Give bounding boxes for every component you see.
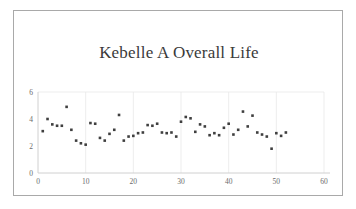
data-point <box>70 129 73 132</box>
data-point <box>251 114 254 117</box>
data-point <box>246 125 249 128</box>
data-point <box>270 147 273 150</box>
x-tick-label-10: 10 <box>82 177 90 186</box>
x-tick-label-20: 20 <box>130 177 138 186</box>
data-point <box>156 122 159 125</box>
data-point <box>127 135 130 138</box>
x-tick-label-0: 0 <box>36 177 40 186</box>
x-tick-label-50: 50 <box>273 177 281 186</box>
scatter-plot: 0246 0102030405060 <box>14 11 344 197</box>
data-point <box>75 139 78 142</box>
data-point <box>41 130 44 133</box>
data-point <box>275 132 278 135</box>
data-point <box>280 135 283 138</box>
data-point <box>223 126 226 129</box>
y-tick-label-6: 6 <box>29 88 33 97</box>
data-point <box>194 131 197 134</box>
data-point <box>89 122 92 125</box>
x-axis-tick-labels: 0102030405060 <box>36 177 328 186</box>
data-point <box>266 135 269 138</box>
y-axis-tick-labels: 0246 <box>29 88 33 178</box>
y-tick-label-0: 0 <box>29 169 33 178</box>
data-point <box>151 124 154 127</box>
data-point <box>51 123 54 126</box>
data-point <box>227 122 230 125</box>
x-tick-label-30: 30 <box>177 177 185 186</box>
data-point <box>161 131 164 134</box>
data-point <box>204 125 207 128</box>
x-tick-label-40: 40 <box>225 177 233 186</box>
data-point <box>65 106 68 109</box>
data-point <box>165 132 168 135</box>
data-point <box>118 114 121 117</box>
data-point <box>256 131 259 134</box>
data-point <box>242 110 245 113</box>
data-point <box>103 139 106 142</box>
data-point <box>232 133 235 136</box>
data-point <box>146 124 149 127</box>
data-point <box>108 133 111 136</box>
data-point <box>61 124 64 127</box>
y-tick-label-2: 2 <box>29 142 33 151</box>
data-point <box>123 139 126 142</box>
data-point <box>137 132 140 135</box>
data-point <box>208 134 211 137</box>
data-point <box>184 116 187 119</box>
data-point <box>261 133 264 136</box>
data-point <box>237 129 240 132</box>
data-point <box>132 135 135 138</box>
data-point <box>46 118 49 121</box>
chart-frame: Kebelle A Overall Life Satisfaction/QOL⋯… <box>13 10 343 196</box>
data-point <box>170 131 173 134</box>
data-point <box>94 122 97 125</box>
data-point <box>218 134 221 137</box>
data-point <box>180 120 183 123</box>
data-point <box>199 123 202 126</box>
data-point <box>56 124 59 127</box>
data-point <box>175 135 178 138</box>
data-point <box>285 131 288 134</box>
x-tick-label-60: 60 <box>320 177 328 186</box>
y-tick-label-4: 4 <box>29 115 33 124</box>
plot-area: 0246 0102030405060 <box>29 88 330 186</box>
chart-screenshot: Kebelle A Overall Life Satisfaction/QOL⋯… <box>0 0 356 209</box>
data-point <box>99 137 102 140</box>
data-point <box>213 132 216 135</box>
data-point <box>142 131 145 134</box>
data-point <box>80 142 83 145</box>
data-point <box>189 117 192 120</box>
data-point <box>113 129 116 132</box>
data-point <box>84 143 87 146</box>
